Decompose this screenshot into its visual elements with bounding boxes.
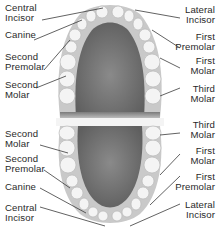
upper-left-lateral-incisor-tooth <box>86 10 96 22</box>
label-lower-second-molar: Second Molar <box>5 129 38 149</box>
upper-right-central-incisor-tooth <box>112 6 124 18</box>
label-upper-lateral-incisor: Lateral Incisor <box>185 5 215 25</box>
lower-left-canine-tooth <box>79 198 89 210</box>
label-lower-first-premolar: First Premolar <box>175 172 215 192</box>
lower-right-canine-tooth <box>131 198 141 210</box>
label-upper-first-premolar: First Premolar <box>175 32 215 52</box>
label-lower-lateral-incisor: Lateral Incisor <box>185 200 215 220</box>
leader-line-lower-third-molar <box>160 133 180 135</box>
label-upper-second-premolar: Second Premolar <box>5 52 45 72</box>
upper-left-second-premolar-tooth <box>65 41 77 53</box>
upper-left-canine-tooth <box>77 18 87 30</box>
upper-right-first-molar-tooth <box>144 54 160 70</box>
lower-left-first-molar-tooth <box>60 157 76 173</box>
label-lower-second-premolar: Second Premolar <box>5 154 45 174</box>
upper-left-first-premolar-tooth <box>69 29 81 41</box>
upper-right-canine-tooth <box>133 18 143 30</box>
upper-right-second-premolar-tooth <box>143 41 155 53</box>
lower-right-second-premolar-tooth <box>142 175 154 187</box>
upper-left-third-molar-tooth <box>59 88 75 104</box>
lower-left-lateral-incisor-tooth <box>88 207 98 217</box>
upper-right-lateral-incisor-tooth <box>124 10 134 22</box>
lower-left-first-premolar-tooth <box>71 187 83 199</box>
label-upper-canine: Canine <box>5 30 36 40</box>
leader-line-upper-first-molar <box>160 58 180 68</box>
upper-right-third-molar-tooth <box>145 88 161 104</box>
upper-right-first-premolar-tooth <box>139 29 151 41</box>
upper-left-first-molar-tooth <box>60 54 76 70</box>
label-upper-first-molar: First Molar <box>191 56 216 76</box>
label-lower-canine: Canine <box>5 182 36 192</box>
lower-right-lateral-incisor-tooth <box>122 207 132 217</box>
lower-left-central-incisor-tooth <box>98 211 108 221</box>
label-upper-central-incisor: Central Incisor <box>5 3 37 23</box>
upper-right-second-molar-tooth <box>145 71 161 87</box>
lower-right-second-molar-tooth <box>145 140 161 156</box>
label-lower-third-molar: Third Molar <box>191 120 216 140</box>
lower-right-central-incisor-tooth <box>112 211 122 221</box>
label-lower-central-incisor: Central Incisor <box>5 203 37 223</box>
lower-right-third-molar-tooth <box>145 126 161 140</box>
lower-left-second-molar-tooth <box>59 140 75 156</box>
lower-arch <box>59 126 162 223</box>
lower-left-third-molar-tooth <box>59 126 75 140</box>
upper-arch <box>58 5 161 118</box>
leader-line-upper-third-molar <box>160 88 180 96</box>
label-upper-third-molar: Third Molar <box>191 84 216 104</box>
lower-right-first-molar-tooth <box>144 157 160 173</box>
label-lower-first-molar: First Molar <box>191 146 216 166</box>
lower-right-first-premolar-tooth <box>137 187 149 199</box>
label-upper-second-molar: Second Molar <box>5 80 38 100</box>
lower-left-second-premolar-tooth <box>66 175 78 187</box>
upper-left-second-molar-tooth <box>59 71 75 87</box>
jaw-gap-highlight <box>56 118 164 126</box>
